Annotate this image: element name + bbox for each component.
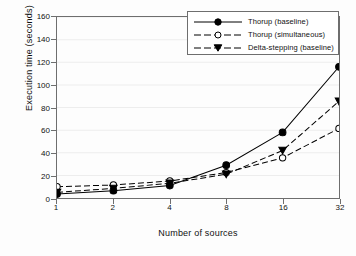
legend-label: Thorup (simultaneous) — [244, 30, 325, 39]
chart-legend: Thorup (baseline)Thorup (simultaneous)De… — [187, 11, 339, 55]
series-line-2 — [57, 101, 339, 192]
legend-marker-filled-circle-icon — [192, 16, 244, 28]
x-axis-label: Number of sources — [56, 228, 340, 238]
x-tick-label: 32 — [327, 203, 353, 212]
legend-dot — [215, 18, 221, 24]
x-tick-label: 8 — [213, 203, 239, 212]
legend-label: Thorup (baseline) — [244, 17, 308, 26]
y-tick-label: 100 — [22, 80, 50, 89]
y-tick-label: 140 — [22, 34, 50, 43]
y-tick-label: 80 — [22, 103, 50, 112]
x-tick-mark — [283, 199, 284, 204]
series-line-1 — [57, 128, 339, 186]
y-tick-label: 20 — [22, 172, 50, 181]
x-tick-mark — [56, 199, 57, 204]
legend-row: Thorup (baseline) — [192, 15, 334, 28]
legend-row: Thorup (simultaneous) — [192, 28, 334, 41]
chart-figure: Execution time (seconds) Number of sourc… — [0, 0, 356, 256]
y-tick-label: 120 — [22, 57, 50, 66]
x-tick-mark — [226, 199, 227, 204]
legend-dot — [215, 32, 221, 38]
y-tick-label: 60 — [22, 126, 50, 135]
legend-marker-open-circle-icon — [192, 29, 244, 41]
data-point-filled-circle — [223, 162, 230, 169]
x-tick-label: 16 — [270, 203, 296, 212]
x-tick-label: 4 — [157, 203, 183, 212]
legend-label: Delta-stepping (baseline) — [244, 43, 334, 52]
legend-row: Delta-stepping (baseline) — [192, 41, 334, 54]
x-tick-label: 2 — [100, 203, 126, 212]
x-tick-mark — [340, 199, 341, 204]
x-tick-mark — [113, 199, 114, 204]
data-point-open-circle — [279, 155, 285, 161]
y-tick-label: 160 — [22, 12, 50, 21]
data-point-filled-circle — [336, 63, 339, 70]
legend-marker-filled-triangle-down-icon — [192, 42, 244, 54]
data-point-filled-circle — [279, 129, 286, 136]
x-tick-mark — [170, 199, 171, 204]
y-tick-label: 40 — [22, 149, 50, 158]
x-tick-label: 1 — [43, 203, 69, 212]
data-point-open-circle — [336, 125, 339, 131]
